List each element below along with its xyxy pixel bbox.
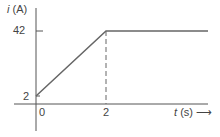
x-tick-label-2: 2 xyxy=(103,106,109,118)
y-tick-label-2: 2 xyxy=(23,90,29,102)
x-axis-label: t (s) ⟶ xyxy=(174,106,212,119)
x-tick-label-0: 0 xyxy=(39,106,45,118)
arrow-right-icon: ⟶ xyxy=(196,106,212,118)
current-line xyxy=(36,31,208,96)
y-axis-label: i (A) xyxy=(7,3,27,15)
y-tick-label-42: 42 xyxy=(13,24,25,36)
